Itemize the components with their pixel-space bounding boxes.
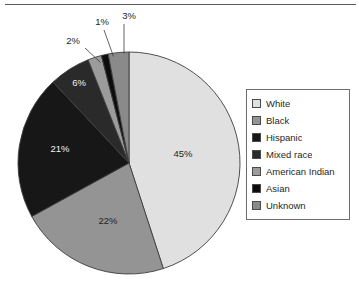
legend-swatch-hispanic [252,133,261,142]
legend-swatch-american-indian [252,167,261,176]
legend-label-hispanic: Hispanic [266,133,302,143]
legend-item-unknown[interactable]: Unknown [252,197,345,214]
legend-item-mixed-race[interactable]: Mixed race [252,146,345,163]
chart-legend: White Black Hispanic Mixed race American… [246,89,350,220]
leader-line-asian [104,30,114,57]
pie-label-mixed-race: 6% [72,77,86,88]
legend-item-black[interactable]: Black [252,112,345,129]
pie-label-hispanic: 21% [50,143,70,154]
legend-item-white[interactable]: White [252,95,345,112]
legend-label-asian: Asian [266,184,290,194]
pie-label-american-indian: 2% [66,35,80,46]
pie-chart: 45% 22% 21% 6% 2% 1% 3% [0,0,250,283]
legend-label-unknown: Unknown [266,201,306,211]
legend-label-white: White [266,99,290,109]
pie-label-asian: 1% [95,16,109,27]
legend-swatch-unknown [252,201,261,210]
pie-label-unknown: 3% [122,10,136,21]
legend-label-mixed-race: Mixed race [266,150,312,160]
legend-swatch-asian [252,184,261,193]
pie-slice-group [18,52,240,274]
legend-item-asian[interactable]: Asian [252,180,345,197]
chart-page: 45% 22% 21% 6% 2% 1% 3% White Black Hisp… [0,0,359,283]
legend-swatch-black [252,116,261,125]
legend-label-black: Black [266,116,289,126]
legend-swatch-mixed-race [252,150,261,159]
legend-item-hispanic[interactable]: Hispanic [252,129,345,146]
pie-label-black: 22% [98,215,118,226]
legend-label-american-indian: American Indian [266,167,335,177]
legend-swatch-white [252,99,261,108]
pie-label-white: 45% [173,148,193,159]
pie-chart-svg: 45% 22% 21% 6% 2% 1% 3% [0,0,250,283]
legend-item-american-indian[interactable]: American Indian [252,163,345,180]
